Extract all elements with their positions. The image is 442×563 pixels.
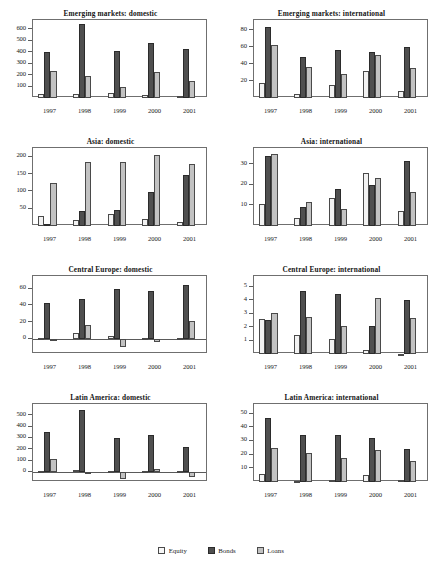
y-axis-tick-label: 20 <box>241 179 247 186</box>
bar-bonds <box>114 438 120 472</box>
y-axis-tick-label: 1 <box>244 335 247 342</box>
bar-loans <box>375 55 381 98</box>
plot-frame <box>253 19 428 97</box>
chart-panel: Emerging markets: domestic10020030040050… <box>0 4 221 132</box>
plot-frame <box>253 403 428 481</box>
bar-loans <box>85 76 91 98</box>
bar-loans <box>271 313 277 354</box>
x-axis-tick-label: 2001 <box>172 107 207 114</box>
legend-label: Loans <box>267 547 284 554</box>
x-axis-tick-label: 2000 <box>137 363 172 370</box>
x-axis: 19971998199920002001 <box>32 353 207 377</box>
x-axis-tick-label: 1997 <box>253 491 288 498</box>
x-axis-tick-label: 2001 <box>393 107 428 114</box>
y-axis: 20406080 <box>221 19 253 97</box>
bar-loans <box>154 155 160 226</box>
bar-loans <box>306 453 312 482</box>
legend-label: Equity <box>169 547 187 554</box>
x-axis-tick-label: 1999 <box>323 491 358 498</box>
x-axis-tick-label: 1999 <box>323 235 358 242</box>
bar-loans <box>50 459 56 471</box>
bar-loans <box>50 183 56 226</box>
panel-title: Central Europe: international <box>221 260 442 275</box>
bar-loans <box>85 162 91 226</box>
y-axis-tick-label: 0 <box>23 333 26 340</box>
y-axis-tick-label: 4 <box>244 295 247 302</box>
bars-layer <box>254 20 427 96</box>
bar-loans <box>271 154 277 226</box>
y-axis-tick-label: 60 <box>20 283 26 290</box>
plot-area: 020406019971998199920002001 <box>0 275 221 388</box>
plot-frame <box>32 275 207 353</box>
y-axis-tick-label: 40 <box>20 300 26 307</box>
x-axis-tick-label: 2000 <box>358 235 393 242</box>
plot-area: 102030405019971998199920002001 <box>221 403 442 516</box>
bar-loans <box>154 339 160 342</box>
chart-panel: Central Europe: international12345199719… <box>221 260 442 388</box>
x-axis-tick-label: 1997 <box>32 235 67 242</box>
bar-loans <box>341 209 347 226</box>
bar-loans <box>410 461 416 482</box>
plot-frame <box>253 147 428 225</box>
bar-loans <box>189 164 195 226</box>
x-axis-tick-label: 2001 <box>393 491 428 498</box>
bar-loans <box>306 67 312 98</box>
panel-title: Latin America: domestic <box>0 388 221 403</box>
chart-panel: Asia: domestic50100150200199719981999200… <box>0 132 221 260</box>
y-axis-tick-label: 100 <box>16 186 26 193</box>
bar-bonds <box>114 289 120 339</box>
bar-loans <box>271 448 277 482</box>
y-axis: 100200300400500600 <box>0 19 32 97</box>
bar-loans <box>375 298 381 354</box>
y-axis-tick-label: 20 <box>20 317 26 324</box>
bar-loans <box>410 192 416 226</box>
plot-area: 010020030040050019971998199920002001 <box>0 403 221 516</box>
x-axis-tick-label: 1999 <box>102 107 137 114</box>
x-axis-tick-label: 2001 <box>172 363 207 370</box>
legend-swatch-bonds-icon <box>208 547 215 554</box>
chart-panel: Asia: international102030199719981999200… <box>221 132 442 260</box>
y-axis-tick-label: 150 <box>16 169 26 176</box>
x-axis-tick-label: 1998 <box>67 107 102 114</box>
x-axis-tick-label: 1998 <box>288 491 323 498</box>
x-axis-tick-label: 1998 <box>67 491 102 498</box>
bar-bonds <box>148 435 154 472</box>
panel-title: Asia: domestic <box>0 132 221 147</box>
x-axis-tick-label: 1999 <box>102 235 137 242</box>
bars-layer <box>254 148 427 224</box>
x-axis: 19971998199920002001 <box>253 225 428 249</box>
y-axis-tick-label: 100 <box>16 455 26 462</box>
y-axis-tick-label: 30 <box>241 159 247 166</box>
bar-loans <box>341 74 347 98</box>
bar-loans <box>410 318 416 354</box>
x-axis-tick-label: 2000 <box>137 491 172 498</box>
y-axis-tick-label: 50 <box>20 203 26 210</box>
x-axis-tick-label: 1997 <box>253 363 288 370</box>
panel-title: Central Europe: domestic <box>0 260 221 275</box>
y-axis-tick-label: 200 <box>16 151 26 158</box>
x-axis: 19971998199920002001 <box>32 225 207 249</box>
legend-swatch-equity-icon <box>158 547 165 554</box>
bar-loans <box>271 45 277 98</box>
x-axis-tick-label: 2001 <box>172 491 207 498</box>
bar-bonds <box>148 291 154 339</box>
bar-loans <box>154 72 160 98</box>
x-axis-tick-label: 2001 <box>393 235 428 242</box>
bars-layer <box>33 20 206 96</box>
plot-frame <box>32 19 207 97</box>
bar-loans <box>50 339 56 341</box>
y-axis: 50100150200 <box>0 147 32 225</box>
y-axis-tick-label: 10 <box>241 200 247 207</box>
y-axis-tick-label: 400 <box>16 421 26 428</box>
y-axis: 0204060 <box>0 275 32 353</box>
x-axis-tick-label: 2000 <box>358 491 393 498</box>
panel-title: Emerging markets: domestic <box>0 4 221 19</box>
y-axis-tick-label: 300 <box>16 58 26 65</box>
y-axis-tick-label: 10 <box>241 463 247 470</box>
figure-legend: EquityBondsLoans <box>0 547 442 554</box>
bar-loans <box>189 321 195 339</box>
chart-panel: Emerging markets: international204060801… <box>221 4 442 132</box>
y-axis: 12345 <box>221 275 253 353</box>
y-axis-tick-label: 40 <box>241 59 247 66</box>
y-axis-tick-label: 200 <box>16 70 26 77</box>
